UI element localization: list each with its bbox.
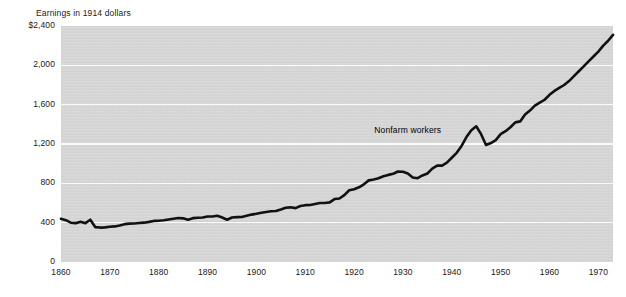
- x-axis-tick-label: 1920: [334, 267, 374, 277]
- x-axis-tick-label: 1860: [41, 267, 81, 277]
- x-axis-labels: 1860187018801890190019101920193019401950…: [0, 0, 626, 297]
- x-axis-tick-label: 1940: [432, 267, 472, 277]
- chart-figure: Earnings in 1914 dollars $2,4002,0001,60…: [0, 0, 626, 297]
- x-axis-tick-label: 1910: [285, 267, 325, 277]
- x-axis-tick-label: 1890: [188, 267, 228, 277]
- annotation-nonfarm-workers: Nonfarm workers: [374, 125, 441, 135]
- x-axis-tick-label: 1880: [139, 267, 179, 277]
- x-axis-tick-label: 1970: [578, 267, 618, 277]
- x-axis-tick-label: 1870: [90, 267, 130, 277]
- x-axis-tick-label: 1950: [481, 267, 521, 277]
- x-axis-tick-label: 1900: [236, 267, 276, 277]
- x-axis-tick-label: 1930: [383, 267, 423, 277]
- x-axis-tick-label: 1960: [529, 267, 569, 277]
